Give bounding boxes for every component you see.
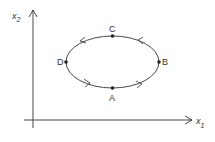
y-axis <box>29 10 37 128</box>
orbit-arrow-top-left-icon <box>80 37 86 43</box>
point-b-label: B <box>162 57 168 67</box>
point-d <box>64 60 68 64</box>
point-c <box>111 34 115 38</box>
point-d-label: D <box>57 57 64 67</box>
point-a-label: A <box>109 93 115 103</box>
y-axis-label: x2 <box>11 11 21 23</box>
point-a <box>111 86 115 90</box>
x-axis-label: x1 <box>195 116 205 129</box>
orbit-arrow-top-right-icon <box>138 37 143 44</box>
limit-cycle-orbit <box>66 36 159 88</box>
x-axis <box>24 116 192 124</box>
point-c-label: C <box>109 24 116 34</box>
point-b <box>157 60 161 64</box>
phase-diagram: x2 x1 A B C D <box>0 0 215 142</box>
